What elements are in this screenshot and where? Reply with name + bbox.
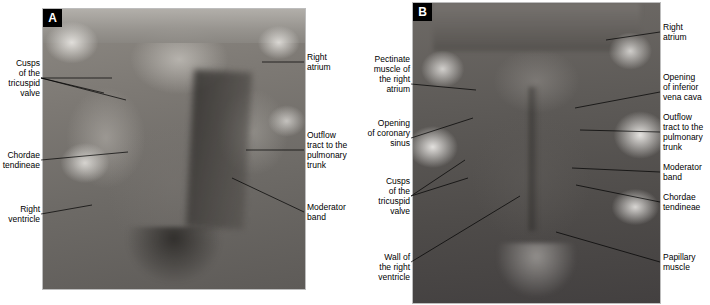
label-right-atrium-a: Right atrium [307,52,357,72]
heart-apex-highlight [497,243,576,297]
label-papillary-muscle-b: Papillary muscle [663,252,709,272]
label-pectinate-muscle-of-the-right-atrium-b: Pectinate muscle of the right atrium [355,54,410,94]
panel-a-photo: A [42,8,306,290]
panel-b-photo: B [412,2,661,304]
label-moderator-band-a: Moderator band [307,202,362,222]
panel-a-specimen-image [43,9,305,289]
label-chordae-tendineae-b: Chordae tendineae [663,192,710,212]
label-opening-of-coronary-sinus-b: Opening of coronary sinus [350,118,410,148]
right-ventricle-wall-shadow [186,69,252,229]
panel-b-specimen-image [413,3,660,303]
label-moderator-band-b: Moderator band [663,162,710,182]
label-right-ventricle-a: Right ventricle [0,204,40,224]
label-outflow-tract-to-the-pulmonary-trunk-b: Outflow tract to the pulmonary trunk [663,112,710,152]
ventricular-septum-shadow [529,87,539,231]
panel-b-letter: B [413,3,432,21]
label-wall-of-the-right-ventricle-b: Wall of the right ventricle [366,252,410,282]
heart-apex-shadow [127,227,221,283]
label-chordae-tendineae-a: Chordae tendineae [0,150,40,170]
label-opening-of-inferior-vena-cava-b: Opening of inferior vena cava [663,72,710,102]
label-cusps-of-the-tricuspid-valve-b: Cusps of the tricuspid valve [370,176,410,216]
anatomy-figure: A B [0,0,710,305]
label-right-atrium-b: Right atrium [663,22,708,42]
panel-a-letter: A [43,9,62,27]
label-cusps-of-the-tricuspid-valve-a: Cusps of the tricuspid valve [2,58,40,98]
